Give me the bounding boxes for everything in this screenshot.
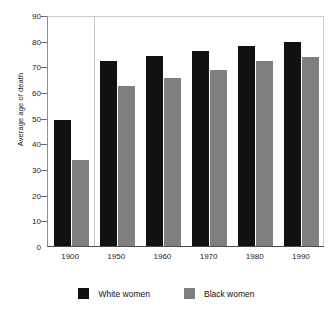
legend-entry-white-women: White women [78, 288, 150, 299]
plot-area [47, 16, 324, 247]
legend-swatch-black-women [184, 288, 195, 299]
x-axis-tick-label-1970: 1970 [200, 252, 218, 261]
legend-swatch-white-women [78, 288, 89, 299]
x-axis-tick-label-1900: 1900 [61, 252, 79, 261]
y-axis-tick-label: 0 [1, 243, 41, 252]
bar-black-women-1960 [164, 78, 181, 246]
bar-black-women-1970 [210, 70, 227, 246]
legend-entry-black-women: Black women [184, 288, 255, 299]
bar-black-women-1980 [256, 61, 273, 246]
y-axis-tick-label: 70 [1, 63, 41, 72]
group-divider-line [94, 17, 95, 246]
bar-white-women-1970 [192, 51, 209, 246]
bar-white-women-1950 [100, 61, 117, 246]
x-axis-tick-label-1950: 1950 [107, 252, 125, 261]
bar-black-women-1950 [118, 86, 135, 246]
y-axis-tick-label: 90 [1, 12, 41, 21]
y-axis-tick-label: 30 [1, 166, 41, 175]
bar-white-women-1900 [54, 120, 71, 246]
y-axis-tick-label: 50 [1, 114, 41, 123]
bar-black-women-1900 [72, 160, 89, 246]
y-axis-tick-label: 20 [1, 191, 41, 200]
x-axis-tick-label-1990: 1990 [292, 252, 310, 261]
bar-white-women-1980 [238, 46, 255, 246]
y-axis-tick-label: 40 [1, 140, 41, 149]
legend-label-white-women: White women [98, 289, 150, 299]
bar-black-women-1990 [302, 57, 319, 246]
y-axis-tick-label: 10 [1, 217, 41, 226]
bar-chart: Average age of death 0102030405060708090… [0, 0, 333, 315]
x-axis-tick-label-1960: 1960 [154, 252, 172, 261]
bar-white-women-1960 [146, 56, 163, 246]
y-axis-tick-label: 80 [1, 37, 41, 46]
bar-white-women-1990 [284, 42, 301, 246]
y-axis-tick-label: 60 [1, 89, 41, 98]
chart-legend: White women Black women [0, 288, 333, 299]
legend-label-black-women: Black women [204, 289, 255, 299]
x-axis-tick-label-1980: 1980 [246, 252, 264, 261]
